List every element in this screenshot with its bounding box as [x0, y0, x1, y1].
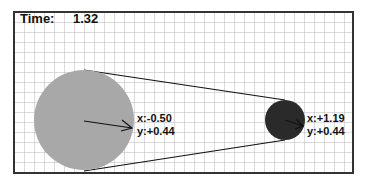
large-body-circle[interactable] [34, 70, 134, 170]
large-body-y: y:+0.44 [137, 125, 175, 138]
small-body-coordinates: x:+1.19 y:+0.44 [307, 112, 345, 138]
large-body-x: x:-0.50 [137, 112, 175, 125]
small-body-x: x:+1.19 [307, 112, 345, 125]
large-body-coordinates: x:-0.50 y:+0.44 [137, 112, 175, 138]
time-label: Time: [20, 11, 54, 26]
small-body-y: y:+0.44 [307, 125, 345, 138]
simulation-canvas: Time: 1.32 x:-0.50 y:+0.44 x:+1.19 y:+0.… [0, 0, 368, 185]
time-value: 1.32 [73, 11, 98, 26]
grid-canvas [0, 0, 368, 185]
